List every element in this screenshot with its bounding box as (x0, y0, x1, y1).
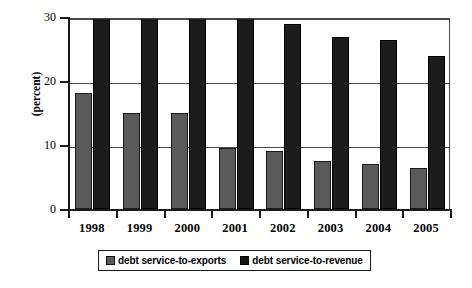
bar-chart: (percent) 0102030 1998199920002001200220… (0, 0, 472, 288)
x-axis-tick (211, 211, 213, 218)
y-axis-tick-label: 20 (28, 75, 56, 87)
x-axis-tick (68, 211, 70, 218)
legend-label-revenue: debt service-to-revenue (252, 255, 363, 266)
bar-exports-2003 (314, 161, 331, 209)
bar-revenue-1998 (93, 18, 110, 209)
legend-label-exports: debt service-to-exports (118, 255, 226, 266)
y-axis-tick-label: 30 (28, 11, 56, 23)
x-axis-tick (307, 211, 309, 218)
bar-revenue-2003 (332, 37, 349, 209)
legend-swatch-revenue-icon (240, 256, 249, 265)
x-axis-tick (450, 211, 452, 218)
bar-exports-2004 (362, 164, 379, 209)
bar-exports-2002 (266, 151, 283, 209)
gridline (69, 19, 449, 20)
bar-exports-2000 (171, 113, 188, 209)
bar-revenue-1999 (141, 18, 158, 209)
bar-revenue-2000 (189, 18, 206, 209)
y-axis-title: (percent) (30, 49, 42, 139)
y-axis-tick-label: 10 (28, 139, 56, 151)
bar-exports-1998 (75, 93, 92, 209)
bar-revenue-2001 (237, 18, 254, 209)
x-axis-tick (259, 211, 261, 218)
legend-swatch-exports-icon (106, 256, 115, 265)
x-axis-tick (355, 211, 357, 218)
y-axis-tick (60, 145, 68, 147)
y-axis-tick-label: 0 (28, 203, 56, 215)
bar-exports-2001 (219, 148, 236, 209)
chart-legend: debt service-to-exports debt service-to-… (98, 250, 371, 271)
bar-exports-2005 (410, 168, 427, 209)
x-axis-tick (402, 211, 404, 218)
y-axis-tick (60, 81, 68, 83)
x-axis-label-2005: 2005 (396, 221, 456, 236)
x-axis-tick (164, 211, 166, 218)
plot-area (68, 18, 450, 210)
bar-revenue-2004 (380, 40, 397, 209)
legend-item-exports: debt service-to-exports (106, 255, 226, 266)
bar-revenue-2002 (284, 24, 301, 209)
y-axis-tick (60, 17, 68, 19)
bar-exports-1999 (123, 113, 140, 209)
bar-revenue-2005 (428, 56, 445, 209)
legend-item-revenue: debt service-to-revenue (240, 255, 363, 266)
x-axis-tick (116, 211, 118, 218)
y-axis-line (68, 17, 70, 211)
